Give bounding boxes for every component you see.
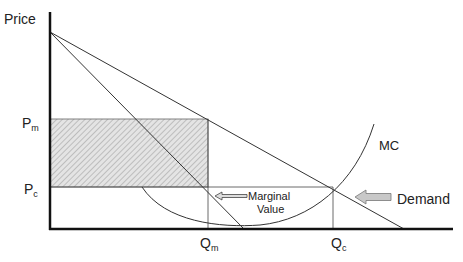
competitive-price-label: Pc xyxy=(24,181,38,199)
y-axis-label: Price xyxy=(4,11,36,27)
competitive-quantity-label: Qc xyxy=(331,235,347,253)
monopoly-price-label: Pm xyxy=(22,115,39,133)
mc-label: MC xyxy=(379,138,399,153)
marginal-value-arrow-icon xyxy=(215,192,247,200)
monopoly-quantity-label: Qm xyxy=(200,235,218,253)
monopoly-profit-area xyxy=(50,119,208,187)
demand-label: Demand xyxy=(397,191,450,207)
marginal-value-label-line1: Marginal xyxy=(248,190,290,202)
demand-arrow-icon xyxy=(355,190,391,204)
marginal-value-label-line2: Value xyxy=(257,203,284,215)
economics-diagram: Price Pm Pc Qm Qc MC Demand Marginal Val… xyxy=(0,0,463,262)
